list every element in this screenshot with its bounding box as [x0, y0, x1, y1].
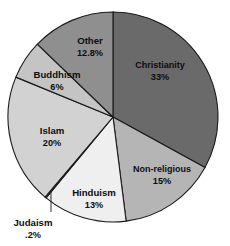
pie-label-value: 20% [43, 138, 61, 148]
pie-label-value: 6% [50, 82, 63, 92]
pie-label-judaism: Judaism.2% [14, 217, 53, 240]
pie-chart-svg: Christianity33%Non-religious15%Hinduism1… [0, 0, 230, 246]
pie-label-value: .2% [25, 230, 41, 240]
pie-label-name: Islam [40, 125, 65, 136]
pie-chart: Christianity33%Non-religious15%Hinduism1… [0, 0, 230, 246]
pie-label-name: Christianity [135, 60, 185, 70]
pie-label-name: Other [77, 35, 103, 46]
pie-label-name: Hinduism [72, 187, 116, 198]
pie-label-name: Non-religious [133, 164, 191, 174]
pie-label-name: Judaism [14, 217, 53, 228]
pie-label-value: 13% [85, 200, 103, 210]
pie-label-value: 15% [153, 176, 171, 186]
pie-label-value: 33% [151, 72, 169, 82]
pie-label-value: 12.8% [77, 48, 103, 58]
pie-label-name: Buddhism [34, 69, 81, 80]
